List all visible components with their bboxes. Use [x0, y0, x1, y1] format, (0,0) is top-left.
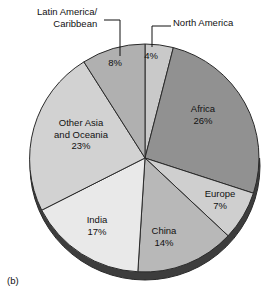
slice-label-other-asia-oceania: Other Asia and Oceania 23%: [40, 117, 122, 152]
slice-value-north-america: 4%: [138, 50, 164, 62]
slice-value-china: 14%: [140, 237, 188, 249]
callout-latin-america-caribbean: Latin America/ Caribbean: [37, 6, 97, 29]
callout-latin-america-line2: Caribbean: [37, 18, 97, 30]
slice-name-china: China: [152, 225, 177, 236]
pie-svg: [0, 0, 267, 303]
slice-name-india: India: [87, 214, 108, 225]
slice-label-india: India 17%: [74, 214, 120, 237]
slice-value-latin-america-caribbean: 8%: [100, 57, 130, 69]
slice-label-north-america: 4%: [138, 50, 164, 62]
slice-name-other-asia-line1: Other Asia: [59, 117, 103, 128]
pie-chart-figure: Latin America/ Caribbean North America 8…: [0, 0, 267, 303]
slice-value-africa: 26%: [175, 115, 231, 127]
slice-name-other-asia-line2: and Oceania: [54, 129, 108, 140]
leader-line-north-america: [152, 26, 171, 47]
slice-label-china: China 14%: [140, 225, 188, 248]
slice-value-europe: 7%: [193, 200, 247, 212]
slice-label-latin-america-caribbean: 8%: [100, 57, 130, 69]
slice-name-europe: Europe: [205, 188, 236, 199]
slice-label-africa: Africa 26%: [175, 103, 231, 126]
slice-value-india: 17%: [74, 226, 120, 238]
pie-chart-area: Latin America/ Caribbean North America 8…: [0, 0, 267, 303]
callout-north-america-line1: North America: [173, 17, 233, 29]
slice-label-europe: Europe 7%: [193, 188, 247, 211]
callout-north-america: North America: [173, 17, 233, 29]
callout-latin-america-line1: Latin America/: [37, 6, 97, 18]
slice-name-africa: Africa: [191, 103, 215, 114]
figure-caption: (b): [7, 275, 19, 286]
slice-value-other-asia-oceania: 23%: [40, 140, 122, 152]
